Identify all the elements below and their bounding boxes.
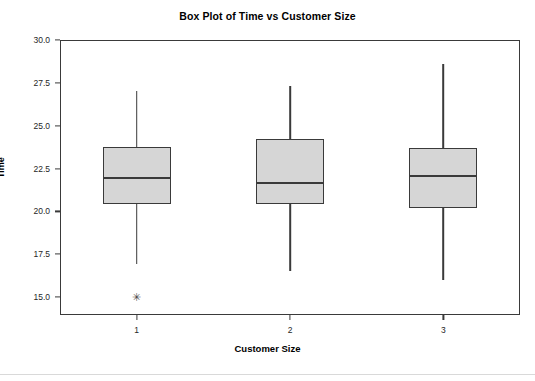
median-line (409, 175, 477, 177)
y-tick-label: 15.0 (4, 292, 50, 302)
interquartile-box (409, 148, 477, 208)
box-plot-figure: Box Plot of Time vs Customer Size Time C… (0, 0, 535, 381)
x-tick-label: 3 (441, 325, 446, 335)
lower-whisker (443, 208, 445, 280)
y-tick-label: 17.5 (4, 249, 50, 259)
y-tick-mark (55, 125, 60, 126)
x-tick-mark (136, 315, 137, 320)
lower-whisker (136, 204, 138, 264)
x-tick-mark (443, 315, 444, 320)
y-tick-label: 27.5 (4, 78, 50, 88)
y-tick-mark (55, 39, 60, 40)
y-tick-label: 25.0 (4, 121, 50, 131)
x-axis-title: Customer Size (0, 343, 535, 354)
y-tick-mark (55, 254, 60, 255)
y-tick-mark (55, 211, 60, 212)
upper-whisker (443, 64, 445, 148)
x-tick-mark (289, 315, 290, 320)
median-line (256, 182, 324, 184)
interquartile-box (103, 147, 171, 204)
upper-whisker (289, 86, 291, 139)
y-tick-mark (55, 82, 60, 83)
y-tick-label: 30.0 (4, 35, 50, 45)
x-tick-label: 2 (288, 325, 293, 335)
page-title: Box Plot of Time vs Customer Size (0, 10, 535, 22)
y-tick-label: 22.5 (4, 164, 50, 174)
interquartile-box (256, 139, 324, 204)
lower-whisker (289, 204, 291, 271)
upper-whisker (136, 91, 138, 147)
y-tick-label: 20.0 (4, 206, 50, 216)
footer-divider (0, 374, 535, 375)
y-tick-mark (55, 296, 60, 297)
y-tick-mark (55, 168, 60, 169)
median-line (103, 177, 171, 179)
outlier-marker: ✳ (132, 292, 141, 303)
x-tick-label: 1 (134, 325, 139, 335)
